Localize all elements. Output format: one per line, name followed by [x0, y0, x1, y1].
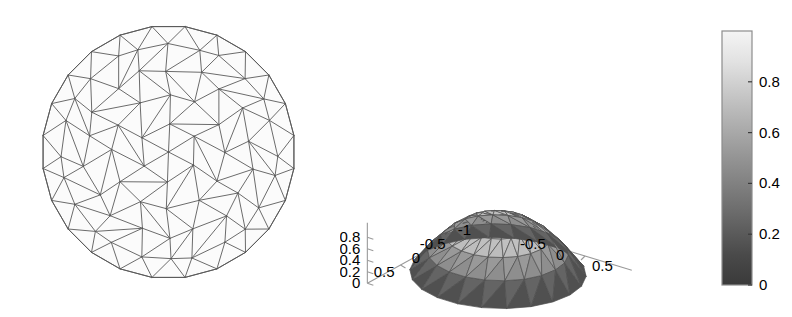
colorbar-tick-label: 0.4 — [759, 174, 780, 191]
mesh-triangle — [245, 52, 269, 79]
panel-surface-3d: 0.80.60.40.200.50-0.5-1-0.500.5 — [340, 0, 792, 317]
z-tick — [367, 272, 373, 274]
z-tick — [367, 260, 373, 262]
y-tick — [401, 265, 406, 268]
z-tick — [367, 283, 373, 285]
colorbar: 0.80.60.40.20 — [722, 31, 780, 293]
mesh-svg — [0, 0, 340, 317]
surface-svg: 0.80.60.40.200.50-0.5-1-0.500.5 — [340, 0, 792, 317]
x-tick-label: 0 — [556, 246, 564, 263]
z-tick — [367, 237, 373, 239]
figure-canvas: 0.80.60.40.200.50-0.5-1-0.500.5 — [0, 0, 792, 317]
z-tick — [367, 249, 373, 251]
panel-triangular-mesh — [0, 0, 340, 317]
colorbar-tick-label: 0.8 — [759, 73, 780, 90]
colorbar-ticks: 0.80.60.40.20 — [748, 73, 780, 293]
mesh-edge — [142, 228, 143, 257]
z-tick-label: 0 — [352, 274, 360, 291]
colorbar-gradient — [722, 31, 752, 285]
x-tick-label: -0.5 — [520, 235, 546, 252]
colorbar-tick-label: 0.6 — [759, 124, 780, 141]
colorbar-tick-label: 0 — [759, 276, 767, 293]
y-tick-label: -1 — [458, 221, 471, 238]
y-tick-label: -0.5 — [420, 235, 446, 252]
x-tick-label: 0.5 — [592, 257, 613, 274]
colorbar-tick-label: 0.2 — [759, 225, 780, 242]
y-tick-label: 0.5 — [374, 263, 395, 280]
x-tick — [581, 256, 585, 260]
